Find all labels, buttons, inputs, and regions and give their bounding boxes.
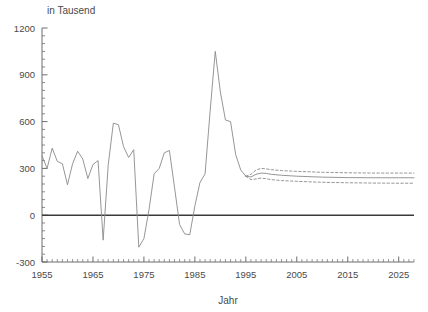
y-axis-tick-label: 0 [30,210,35,221]
x-axis-tick-label: 1965 [82,269,103,280]
y-axis-tick-label: -300 [16,257,35,268]
series-line [246,168,414,176]
series-line [246,173,414,178]
y-axis-tick-label: 900 [19,69,35,80]
chart-container: -300030060090012001955196519751985199520… [0,0,428,312]
x-axis-tick-label: 1975 [133,269,154,280]
x-axis-title: Jahr [218,295,238,306]
series-line [42,51,246,247]
x-axis-tick-label: 2015 [337,269,358,280]
y-axis-tick-label: 300 [19,163,35,174]
x-axis-tick-label: 1985 [184,269,205,280]
x-axis-tick-label: 1955 [31,269,52,280]
y-axis-tick-label: 600 [19,116,35,127]
line-chart: -300030060090012001955196519751985199520… [0,0,428,312]
y-axis-tick-label: 1200 [14,23,35,34]
x-axis-tick-label: 2025 [388,269,409,280]
x-axis-tick-label: 2005 [286,269,307,280]
y-axis-unit-label: in Tausend [47,5,95,16]
x-axis-tick-label: 1995 [235,269,256,280]
